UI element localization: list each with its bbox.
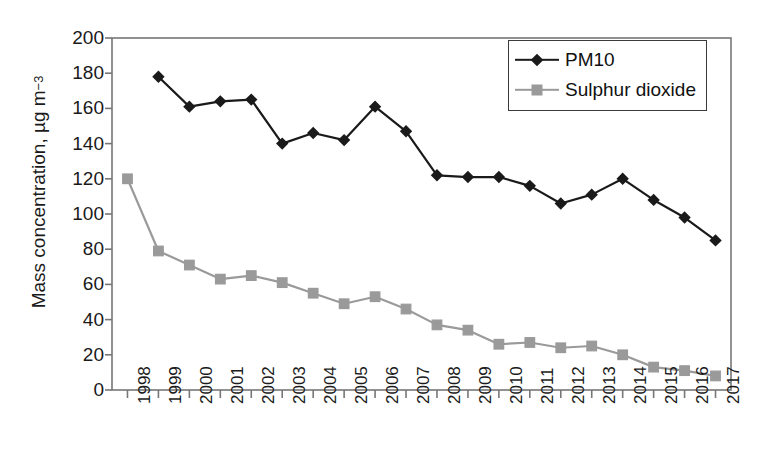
x-tick-label: 2005: [352, 366, 372, 404]
diamond-marker-icon: [531, 54, 544, 67]
x-tick-label: 2001: [228, 366, 248, 404]
x-tick-label: 2015: [662, 366, 682, 404]
legend-entry-pm10: PM10: [515, 45, 696, 75]
x-tick-label: 2016: [693, 366, 713, 404]
legend-entry-sulphur-dioxide: Sulphur dioxide: [515, 75, 696, 105]
square-marker-icon: [532, 85, 543, 96]
x-tick-label: 2000: [197, 366, 217, 404]
x-tick-label: 2004: [321, 366, 341, 404]
x-tick-label: 2017: [724, 366, 744, 404]
chart-legend: PM10 Sulphur dioxide: [508, 40, 707, 111]
x-tick-label: 2013: [600, 366, 620, 404]
x-tick-label: 1998: [135, 366, 155, 404]
legend-label-sulphur-dioxide: Sulphur dioxide: [565, 79, 696, 101]
x-tick-label: 2002: [259, 366, 279, 404]
x-tick-label: 2009: [476, 366, 496, 404]
legend-label-pm10: PM10: [565, 49, 615, 71]
x-tick-label: 2007: [414, 366, 434, 404]
legend-swatch-pm10: [515, 50, 559, 70]
x-tick-label: 2006: [383, 366, 403, 404]
legend-swatch-sulphur-dioxide: [515, 80, 559, 100]
x-tick-label: 2010: [507, 366, 527, 404]
x-tick-label: 2014: [631, 366, 651, 404]
x-tick-label: 2003: [290, 366, 310, 404]
x-tick-label: 2011: [538, 367, 558, 404]
x-tick-label: 2012: [569, 366, 589, 404]
x-tick-label: 2008: [445, 366, 465, 404]
chart-figure: Mass concentration, µg m−3 0204060801001…: [0, 0, 757, 473]
x-tick-label: 1999: [166, 366, 186, 404]
